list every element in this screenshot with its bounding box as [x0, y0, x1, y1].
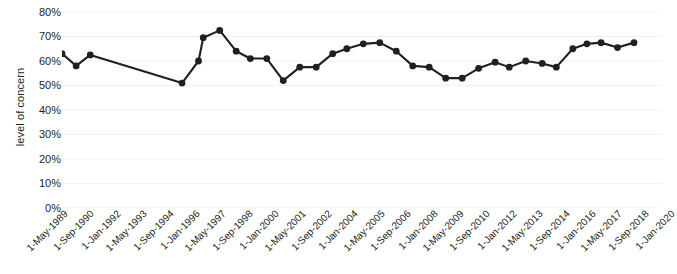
data-point — [73, 63, 80, 70]
y-axis-tick-label: 80% — [39, 7, 61, 18]
data-point — [522, 58, 529, 65]
series-svg — [62, 12, 662, 208]
data-point — [247, 55, 254, 62]
data-point — [539, 60, 546, 67]
data-point — [426, 64, 433, 71]
series-markers — [62, 27, 637, 86]
data-point — [87, 51, 94, 58]
y-axis-tick-label: 70% — [39, 31, 61, 42]
data-point — [360, 40, 367, 47]
data-point — [584, 40, 591, 47]
data-point — [313, 64, 320, 71]
y-axis-tick-label: 20% — [39, 154, 61, 165]
data-point — [553, 64, 560, 71]
data-point — [296, 64, 303, 71]
x-axis-tick-labels: 1-May-19891-Sep-19901-Jan-19921-May-1993… — [0, 208, 667, 274]
series-line — [62, 30, 634, 83]
data-point — [179, 80, 186, 87]
data-point — [195, 58, 202, 65]
data-point — [459, 75, 466, 82]
data-point — [216, 27, 223, 34]
data-point — [475, 65, 482, 72]
data-point — [442, 75, 449, 82]
data-point — [569, 45, 576, 52]
data-point — [631, 39, 638, 46]
data-point — [280, 77, 287, 84]
data-point — [233, 48, 240, 55]
y-axis-tick-label: 10% — [39, 178, 61, 189]
y-axis-tick-label: 50% — [39, 80, 61, 91]
data-point — [329, 50, 336, 57]
data-point — [200, 34, 207, 41]
data-point — [409, 63, 416, 70]
data-point — [393, 48, 400, 55]
y-axis-tick-label: 30% — [39, 129, 61, 140]
y-axis-tick-label: 40% — [39, 105, 61, 116]
y-axis-tick-label: 60% — [39, 56, 61, 67]
data-point — [598, 39, 605, 46]
data-point — [614, 44, 621, 51]
data-point — [343, 45, 350, 52]
data-point — [492, 59, 499, 66]
plot-area — [62, 12, 662, 208]
data-point — [506, 64, 513, 71]
data-point — [376, 39, 383, 46]
data-point — [263, 55, 270, 62]
